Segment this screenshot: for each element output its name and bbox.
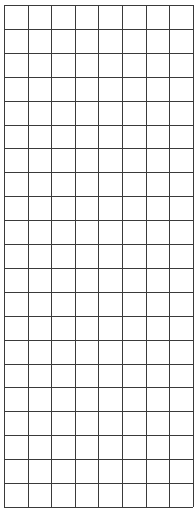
- grid-cell[interactable]: [99, 412, 122, 435]
- grid-cell[interactable]: [5, 221, 28, 244]
- grid-cell[interactable]: [5, 365, 28, 388]
- grid-cell[interactable]: [5, 54, 28, 77]
- grid-cell[interactable]: [99, 221, 122, 244]
- grid-cell[interactable]: [5, 126, 28, 149]
- grid-cell[interactable]: [5, 412, 28, 435]
- grid-cell[interactable]: [170, 269, 193, 292]
- grid-cell[interactable]: [170, 173, 193, 196]
- grid-cell[interactable]: [147, 197, 170, 220]
- grid-cell[interactable]: [147, 54, 170, 77]
- grid-cell[interactable]: [170, 436, 193, 459]
- grid-cell[interactable]: [52, 317, 75, 340]
- grid-cell[interactable]: [99, 102, 122, 125]
- grid-cell[interactable]: [52, 54, 75, 77]
- grid-cell[interactable]: [123, 221, 146, 244]
- grid-cell[interactable]: [170, 412, 193, 435]
- grid-cell[interactable]: [5, 460, 28, 483]
- grid-cell[interactable]: [52, 173, 75, 196]
- grid-cell[interactable]: [5, 341, 28, 364]
- grid-cell[interactable]: [5, 245, 28, 268]
- grid-cell[interactable]: [52, 6, 75, 29]
- grid-cell[interactable]: [147, 269, 170, 292]
- grid-cell[interactable]: [5, 30, 28, 53]
- grid-cell[interactable]: [123, 365, 146, 388]
- grid-cell[interactable]: [123, 484, 146, 507]
- grid-cell[interactable]: [52, 149, 75, 172]
- grid-cell[interactable]: [29, 412, 52, 435]
- grid-cell[interactable]: [170, 30, 193, 53]
- grid-cell[interactable]: [52, 460, 75, 483]
- grid-cell[interactable]: [147, 173, 170, 196]
- grid-cell[interactable]: [76, 412, 99, 435]
- grid-cell[interactable]: [52, 341, 75, 364]
- grid-cell[interactable]: [76, 365, 99, 388]
- grid-cell[interactable]: [76, 484, 99, 507]
- grid-cell[interactable]: [99, 293, 122, 316]
- grid-cell[interactable]: [29, 484, 52, 507]
- grid-cell[interactable]: [147, 149, 170, 172]
- grid-cell[interactable]: [147, 221, 170, 244]
- grid-cell[interactable]: [123, 78, 146, 101]
- grid-cell[interactable]: [170, 341, 193, 364]
- grid-cell[interactable]: [170, 388, 193, 411]
- grid-cell[interactable]: [29, 102, 52, 125]
- grid-cell[interactable]: [29, 245, 52, 268]
- grid-cell[interactable]: [76, 293, 99, 316]
- grid-cell[interactable]: [76, 126, 99, 149]
- grid-cell[interactable]: [123, 245, 146, 268]
- grid-cell[interactable]: [147, 436, 170, 459]
- grid-cell[interactable]: [147, 30, 170, 53]
- grid-cell[interactable]: [29, 269, 52, 292]
- grid-cell[interactable]: [147, 484, 170, 507]
- grid-cell[interactable]: [5, 78, 28, 101]
- grid-cell[interactable]: [123, 30, 146, 53]
- grid-cell[interactable]: [5, 436, 28, 459]
- grid-cell[interactable]: [76, 436, 99, 459]
- grid-cell[interactable]: [29, 365, 52, 388]
- grid-cell[interactable]: [99, 126, 122, 149]
- grid-cell[interactable]: [123, 54, 146, 77]
- grid-cell[interactable]: [52, 78, 75, 101]
- grid-cell[interactable]: [5, 484, 28, 507]
- grid-cell[interactable]: [52, 30, 75, 53]
- grid-cell[interactable]: [5, 197, 28, 220]
- grid-cell[interactable]: [99, 365, 122, 388]
- grid-cell[interactable]: [29, 197, 52, 220]
- grid-cell[interactable]: [147, 78, 170, 101]
- grid-cell[interactable]: [123, 317, 146, 340]
- grid-cell[interactable]: [123, 269, 146, 292]
- grid-cell[interactable]: [170, 293, 193, 316]
- grid-cell[interactable]: [52, 436, 75, 459]
- grid-cell[interactable]: [147, 341, 170, 364]
- grid-cell[interactable]: [147, 460, 170, 483]
- grid-cell[interactable]: [29, 388, 52, 411]
- grid-cell[interactable]: [76, 6, 99, 29]
- grid-cell[interactable]: [76, 197, 99, 220]
- grid-cell[interactable]: [52, 293, 75, 316]
- grid-cell[interactable]: [99, 341, 122, 364]
- grid-cell[interactable]: [123, 6, 146, 29]
- grid-cell[interactable]: [170, 484, 193, 507]
- grid-cell[interactable]: [76, 30, 99, 53]
- grid-cell[interactable]: [147, 388, 170, 411]
- grid-cell[interactable]: [5, 388, 28, 411]
- grid-cell[interactable]: [123, 126, 146, 149]
- grid-cell[interactable]: [29, 317, 52, 340]
- grid-cell[interactable]: [99, 484, 122, 507]
- grid-cell[interactable]: [5, 149, 28, 172]
- grid-cell[interactable]: [76, 317, 99, 340]
- grid-cell[interactable]: [147, 317, 170, 340]
- grid-cell[interactable]: [123, 102, 146, 125]
- grid-cell[interactable]: [76, 269, 99, 292]
- grid-cell[interactable]: [170, 54, 193, 77]
- grid-cell[interactable]: [29, 460, 52, 483]
- grid-cell[interactable]: [170, 102, 193, 125]
- grid-cell[interactable]: [99, 6, 122, 29]
- grid-cell[interactable]: [99, 173, 122, 196]
- grid-cell[interactable]: [29, 436, 52, 459]
- grid-cell[interactable]: [52, 412, 75, 435]
- grid-cell[interactable]: [5, 102, 28, 125]
- grid-cell[interactable]: [123, 412, 146, 435]
- grid-cell[interactable]: [99, 436, 122, 459]
- grid-cell[interactable]: [99, 197, 122, 220]
